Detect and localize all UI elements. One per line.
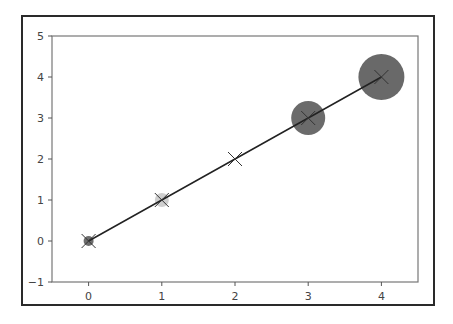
x-tick-label: 0: [85, 290, 92, 303]
y-tick-label: 5: [37, 30, 44, 43]
y-tick-label: 4: [37, 71, 44, 84]
x-tick-label: 1: [158, 290, 165, 303]
y-tick-label: 1: [37, 194, 44, 207]
x-axis: 01234: [85, 282, 385, 303]
x-markers: [82, 70, 389, 248]
y-tick-label: 3: [37, 112, 44, 125]
chart: 01234 −1012345: [0, 0, 453, 324]
y-axis: −1012345: [28, 30, 52, 289]
x-tick-label: 2: [232, 290, 239, 303]
y-tick-label: 2: [37, 153, 44, 166]
x-tick-label: 3: [305, 290, 312, 303]
x-tick-label: 4: [378, 290, 385, 303]
y-tick-label: 0: [37, 235, 44, 248]
y-tick-label: −1: [28, 276, 44, 289]
